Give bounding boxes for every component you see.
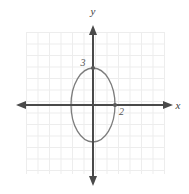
y-intercept-label: 3 bbox=[80, 57, 86, 68]
ellipse-graph-figure: 3 2 y x bbox=[0, 0, 189, 194]
axes-lines bbox=[16, 25, 173, 186]
x-intercept-label: 2 bbox=[119, 106, 124, 117]
grid-vertical-lines bbox=[27, 32, 165, 174]
point-marker-x-intercept bbox=[113, 103, 117, 107]
point-marker-y-intercept bbox=[91, 66, 95, 70]
y-axis-label: y bbox=[90, 5, 96, 17]
x-axis-label: x bbox=[175, 99, 181, 111]
y-axis-arrow-up bbox=[89, 25, 97, 35]
x-axis-arrow-right bbox=[163, 101, 173, 109]
coordinate-plane-svg: 3 2 y x bbox=[0, 0, 189, 194]
y-axis-arrow-down bbox=[89, 176, 97, 186]
grid-lines bbox=[26, 32, 165, 174]
x-axis-arrow-left bbox=[16, 101, 26, 109]
